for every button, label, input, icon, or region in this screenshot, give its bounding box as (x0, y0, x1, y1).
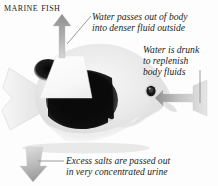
annotation-salts-line1: Excess salts are passed out (66, 155, 170, 166)
annotation-excess-salts: Excess salts are passed out in very conc… (66, 155, 170, 177)
page-title: Marine Fish (4, 1, 60, 13)
fish-shadow (22, 143, 150, 154)
annotation-water-in-line3: body fluids (143, 66, 199, 77)
fish-eye (145, 84, 157, 98)
annotation-water-in-line2: to replenish (143, 55, 199, 66)
annotation-water-is-drunk: Water is drunk to replenish body fluids (143, 44, 199, 78)
annotation-water-out-line1: Water passes out of body (92, 11, 188, 22)
annotation-water-out-line2: into denser fluid outside (92, 22, 188, 33)
annotation-water-passes-out: Water passes out of body into denser flu… (92, 11, 188, 33)
annotation-salts-line2: in very concentrated urine (66, 166, 170, 177)
annotation-water-in-line1: Water is drunk (143, 44, 199, 55)
marine-fish-diagram: Marine Fish (0, 0, 218, 186)
